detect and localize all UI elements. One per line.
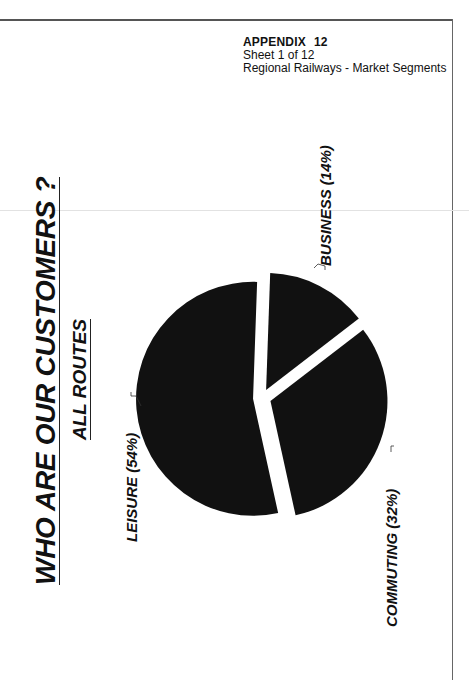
slice-label-commuting: COMMUTING (32%): [384, 489, 399, 627]
leader-line-commuting: [391, 446, 394, 452]
slice-label-leisure: LEISURE (54%): [124, 433, 139, 542]
slice-label-business: BUSINESS (14%): [318, 145, 333, 266]
pie-slice-leisure: [136, 282, 278, 516]
